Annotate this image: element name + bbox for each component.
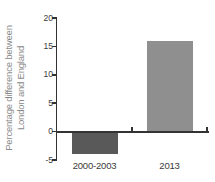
x-label-2013: 2013 [133,160,207,171]
y-tick-label-20: 20 [28,13,53,24]
y-axis-tick-15 [52,46,56,48]
y-tick-label-0: 0 [28,126,53,137]
y-axis-tick-5 [52,102,56,104]
y-axis-line [56,17,58,161]
y-axis-tick-0 [52,131,56,133]
y-axis-tick-10 [52,74,56,76]
y-axis-tick--5 [52,159,56,161]
x-axis-tick-2 [206,127,208,131]
bar-2013 [147,41,193,132]
plot-area: 20151050-52000-20032013 [0,0,215,182]
y-tick-label--5: -5 [28,155,53,166]
y-tick-label-5: 5 [28,98,53,109]
x-axis-line [56,131,209,133]
x-label-2000-2003: 2000-2003 [58,160,132,171]
bar-chart: Percentage difference between London and… [0,0,215,182]
x-axis-tick-1 [131,127,133,131]
bar-2000-2003 [72,132,118,155]
y-tick-label-15: 15 [28,41,53,52]
y-axis-tick-20 [52,17,56,19]
y-tick-label-10: 10 [28,69,53,80]
